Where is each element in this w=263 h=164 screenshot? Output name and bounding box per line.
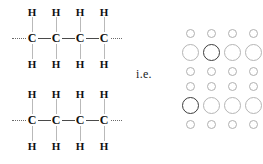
hydrogen-atom-bottom: H — [98, 59, 110, 70]
hydrogen-atom-bottom: H — [98, 141, 110, 152]
model-circle-large-emphasis — [203, 44, 220, 61]
model-circle-small — [186, 120, 195, 129]
model-circle-small — [207, 120, 216, 129]
carbon-atom: C — [99, 32, 110, 44]
model-circle-large — [182, 44, 199, 61]
model-circle-small — [207, 67, 216, 76]
hydrogen-atom-bottom: H — [50, 59, 62, 70]
polyethylene-chain-lower: H H H H C C C C H H H H — [6, 86, 134, 158]
carbon-atom: C — [99, 114, 110, 126]
carbon-atom: C — [75, 32, 86, 44]
ie-connector-label: i.e. — [136, 67, 152, 81]
model-circle-large — [224, 97, 241, 114]
model-circle-small — [228, 67, 237, 76]
hydrogen-atom-bottom: H — [74, 59, 86, 70]
carbon-atom: C — [27, 32, 38, 44]
polyethylene-chain-upper: H H H H C C C C H H H H — [6, 4, 134, 76]
chemistry-structure-figure: H H H H C C C C H H H H H H H H C C C — [0, 0, 263, 164]
model-circle-large — [224, 44, 241, 61]
hydrogen-atom-bottom: H — [26, 59, 38, 70]
model-circle-small — [186, 82, 195, 91]
model-circle-small — [207, 82, 216, 91]
model-circle-small — [249, 67, 258, 76]
model-circle-large — [245, 97, 262, 114]
model-circle-small — [228, 120, 237, 129]
model-circle-large-emphasis — [182, 97, 199, 114]
carbon-atom: C — [27, 114, 38, 126]
model-circle-small — [207, 29, 216, 38]
model-circle-small — [228, 29, 237, 38]
model-circle-large — [203, 97, 220, 114]
hydrogen-atom-bottom: H — [50, 141, 62, 152]
carbon-atom: C — [51, 32, 62, 44]
hydrogen-atom-bottom: H — [26, 141, 38, 152]
model-circle-small — [249, 82, 258, 91]
carbon-atom: C — [75, 114, 86, 126]
model-circle-small — [186, 29, 195, 38]
model-circle-small — [186, 67, 195, 76]
hydrogen-atom-bottom: H — [74, 141, 86, 152]
model-circle-small — [249, 29, 258, 38]
model-circle-large — [245, 44, 262, 61]
model-circle-small — [228, 82, 237, 91]
space-filling-circle-grid — [182, 27, 262, 137]
carbon-atom: C — [51, 114, 62, 126]
model-circle-small — [249, 120, 258, 129]
